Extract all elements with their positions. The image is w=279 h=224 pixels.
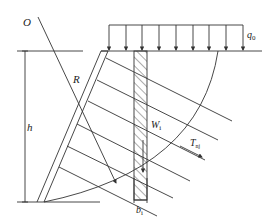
slice-width-label: bi [136, 204, 143, 217]
load-label: q0 [247, 29, 256, 42]
center-label: O [23, 16, 31, 28]
anchor-force-label: Tnj [190, 137, 201, 149]
anchor-1 [106, 58, 232, 121]
weight-label: Wi [151, 119, 161, 132]
diagram-canvas: h O R q0 Wi [0, 0, 279, 224]
anchor-4 [77, 124, 190, 181]
slip-arc [44, 51, 218, 202]
radius-label: R [72, 73, 80, 85]
surcharge-load [109, 25, 243, 50]
anchor-2 [97, 80, 218, 140]
anchor-5 [67, 146, 173, 198]
radius-line [38, 17, 116, 183]
height-label: h [27, 121, 33, 133]
